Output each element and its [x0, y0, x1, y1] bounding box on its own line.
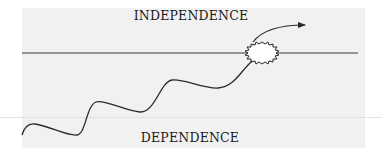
dependence-label: DEPENDENCE [141, 130, 239, 145]
starburst-icon [245, 42, 279, 64]
growth-curve [22, 61, 252, 135]
continuation-arrow-icon [253, 25, 305, 42]
independence-label: INDEPENDENCE [134, 8, 249, 23]
